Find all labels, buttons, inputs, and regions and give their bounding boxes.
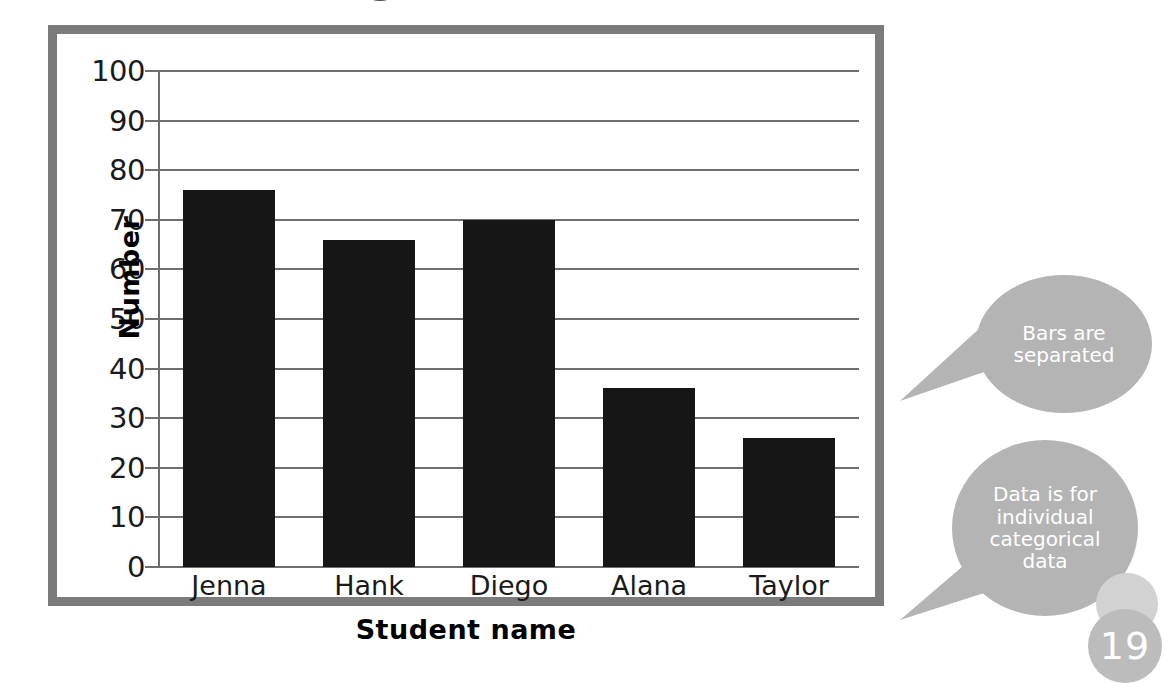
bar-taylor	[743, 438, 835, 567]
bar-jenna	[183, 190, 275, 567]
bar-hank	[323, 240, 415, 567]
x-label-alana: Alana	[579, 572, 719, 612]
x-axis-title: Student name	[48, 614, 884, 645]
y-tick-label-40: 40	[61, 354, 145, 383]
y-tick-label-90: 90	[61, 106, 145, 135]
y-tick-0	[145, 566, 159, 568]
x-label-jenna: Jenna	[159, 572, 299, 612]
y-tick-label-80: 80	[61, 156, 145, 185]
x-axis-category-labels: JennaHankDiegoAlanaTaylor	[159, 572, 859, 612]
bar-series	[159, 71, 859, 567]
chart-frame: 1009080706050403020100 JennaHankDiegoAla…	[48, 25, 884, 606]
y-tick-label-100: 100	[61, 57, 145, 86]
cropped-title-remnant	[368, 0, 392, 1]
x-label-hank: Hank	[299, 572, 439, 612]
bar-alana	[603, 388, 695, 567]
y-tick-30	[145, 417, 159, 419]
y-tick-20	[145, 467, 159, 469]
y-tick-label-0: 0	[61, 553, 145, 582]
plot-area	[159, 71, 859, 567]
page-number: 19	[1088, 609, 1162, 683]
x-label-taylor: Taylor	[719, 572, 859, 612]
y-tick-label-30: 30	[61, 404, 145, 433]
chart-plot-background: 1009080706050403020100 JennaHankDiegoAla…	[57, 34, 875, 597]
callout-bars-separated: Bars areseparated	[900, 275, 1174, 420]
y-tick-label-10: 10	[61, 503, 145, 532]
y-tick-100	[145, 70, 159, 72]
y-tick-90	[145, 120, 159, 122]
y-tick-10	[145, 516, 159, 518]
y-tick-label-20: 20	[61, 453, 145, 482]
callout-bubble: Bars areseparated	[976, 275, 1152, 413]
y-tick-50	[145, 318, 159, 320]
bar-diego	[463, 220, 555, 567]
y-tick-40	[145, 368, 159, 370]
y-tick-80	[145, 169, 159, 171]
page-number-badge: 19	[1088, 601, 1174, 659]
x-label-diego: Diego	[439, 572, 579, 612]
callout-text: Data is forindividualcategoricaldata	[990, 483, 1101, 573]
y-tick-60	[145, 268, 159, 270]
callout-text: Bars areseparated	[1014, 322, 1115, 367]
y-axis-title: Number	[114, 198, 145, 358]
y-tick-70	[145, 219, 159, 221]
